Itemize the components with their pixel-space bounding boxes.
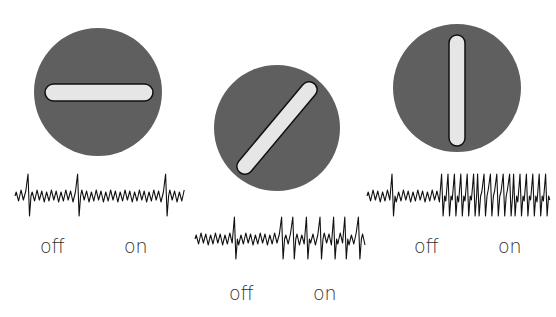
stimulus-horizontal xyxy=(34,28,162,156)
spike-trace-1 xyxy=(15,174,184,216)
light-bar-vertical xyxy=(449,35,465,146)
stimulus-vertical xyxy=(393,24,521,152)
on-label-1: on xyxy=(124,237,148,256)
light-bar-horizontal xyxy=(45,84,153,101)
spike-trace-3 xyxy=(367,174,550,216)
diagram-canvas xyxy=(0,0,556,317)
stimulus-diagonal xyxy=(214,65,340,191)
off-label-2: off xyxy=(229,284,254,303)
off-label-1: off xyxy=(40,237,65,256)
on-label-3: on xyxy=(498,237,522,256)
on-label-2: on xyxy=(313,284,337,303)
spike-trace-2 xyxy=(195,217,365,259)
off-label-3: off xyxy=(414,237,439,256)
